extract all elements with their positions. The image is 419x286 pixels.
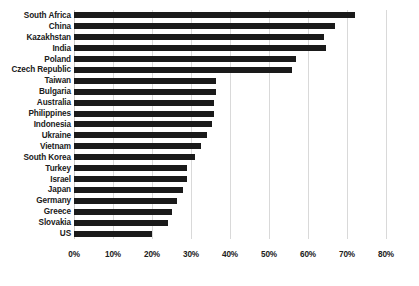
bar-row bbox=[74, 152, 386, 163]
category-label: Israel bbox=[0, 175, 71, 184]
bar-row bbox=[74, 228, 386, 239]
bar-row bbox=[74, 97, 386, 108]
bar bbox=[74, 165, 187, 171]
category-label: South Africa bbox=[0, 11, 71, 20]
bar bbox=[74, 231, 152, 237]
bar-chart: South AfricaChinaKazakhstanIndiaPolandCz… bbox=[0, 0, 419, 286]
x-tick-label: 0% bbox=[68, 250, 80, 260]
bar bbox=[74, 198, 177, 204]
x-tick-label: 80% bbox=[378, 250, 394, 260]
category-label: South Korea bbox=[0, 153, 71, 162]
category-label: Japan bbox=[0, 185, 71, 194]
bar bbox=[74, 187, 183, 193]
x-tick-label: 70% bbox=[339, 250, 355, 260]
bar bbox=[74, 67, 292, 73]
x-tick-label: 30% bbox=[183, 250, 199, 260]
gridline-80 bbox=[386, 10, 387, 239]
category-label: China bbox=[0, 22, 71, 31]
bar-row bbox=[74, 10, 386, 21]
bar-row bbox=[74, 119, 386, 130]
bar-row bbox=[74, 43, 386, 54]
category-label: Slovakia bbox=[0, 218, 71, 227]
category-label: Taiwan bbox=[0, 76, 71, 85]
category-label: Philippines bbox=[0, 109, 71, 118]
category-label: Kazakhstan bbox=[0, 33, 71, 42]
bar bbox=[74, 78, 216, 84]
category-label: Vietnam bbox=[0, 142, 71, 151]
bar-row bbox=[74, 130, 386, 141]
bar bbox=[74, 12, 355, 18]
bar-row bbox=[74, 75, 386, 86]
category-label: Greece bbox=[0, 207, 71, 216]
category-label: Poland bbox=[0, 55, 71, 64]
bar bbox=[74, 56, 296, 62]
category-label: Indonesia bbox=[0, 120, 71, 129]
category-label: Germany bbox=[0, 196, 71, 205]
value-axis: 0%10%20%30%40%50%60%70%80% bbox=[74, 239, 386, 259]
bar bbox=[74, 45, 326, 51]
bar bbox=[74, 220, 168, 226]
category-label: Australia bbox=[0, 98, 71, 107]
x-tick-label: 20% bbox=[144, 250, 160, 260]
category-label: Bulgaria bbox=[0, 87, 71, 96]
bar-series bbox=[74, 10, 386, 239]
category-axis: South AfricaChinaKazakhstanIndiaPolandCz… bbox=[0, 10, 71, 239]
bar-row bbox=[74, 195, 386, 206]
bar bbox=[74, 176, 187, 182]
bar-row bbox=[74, 217, 386, 228]
plot-area bbox=[74, 10, 386, 239]
category-label: Turkey bbox=[0, 164, 71, 173]
bar-row bbox=[74, 54, 386, 65]
category-label: India bbox=[0, 44, 71, 53]
bar bbox=[74, 34, 324, 40]
bar-row bbox=[74, 206, 386, 217]
x-tick-label: 40% bbox=[222, 250, 238, 260]
category-label: US bbox=[0, 229, 71, 238]
bar-row bbox=[74, 86, 386, 97]
bar bbox=[74, 100, 214, 106]
bar bbox=[74, 23, 335, 29]
bar-row bbox=[74, 21, 386, 32]
category-label: Czech Republic bbox=[0, 65, 71, 74]
bar-row bbox=[74, 174, 386, 185]
x-tick-label: 60% bbox=[300, 250, 316, 260]
bar-row bbox=[74, 141, 386, 152]
bar bbox=[74, 89, 216, 95]
category-label: Ukraine bbox=[0, 131, 71, 140]
bar bbox=[74, 154, 195, 160]
bar bbox=[74, 132, 207, 138]
bar-row bbox=[74, 184, 386, 195]
bar-row bbox=[74, 163, 386, 174]
bar bbox=[74, 209, 172, 215]
x-tick-label: 10% bbox=[105, 250, 121, 260]
bar bbox=[74, 111, 214, 117]
bar bbox=[74, 143, 201, 149]
bar-row bbox=[74, 32, 386, 43]
x-tick-label: 50% bbox=[261, 250, 277, 260]
bar bbox=[74, 121, 212, 127]
bar-row bbox=[74, 65, 386, 76]
bar-row bbox=[74, 108, 386, 119]
